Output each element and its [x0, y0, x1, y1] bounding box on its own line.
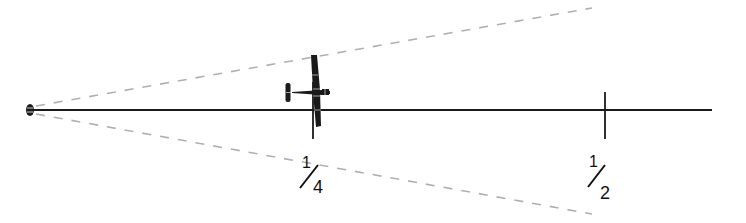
half-numerator: 1: [589, 153, 598, 170]
airplane-icon: [286, 55, 331, 127]
quarter-denominator: 4: [313, 177, 323, 197]
fraction-quarter-label: 1 4: [300, 154, 323, 197]
half-denominator: 2: [600, 183, 610, 203]
lower-sight-line: [36, 114, 592, 214]
sight-line-diagram: 1 4 1 2: [0, 0, 746, 223]
eye-icon: [26, 104, 34, 116]
fraction-half-label: 1 2: [588, 153, 610, 203]
quarter-numerator: 1: [302, 154, 311, 171]
